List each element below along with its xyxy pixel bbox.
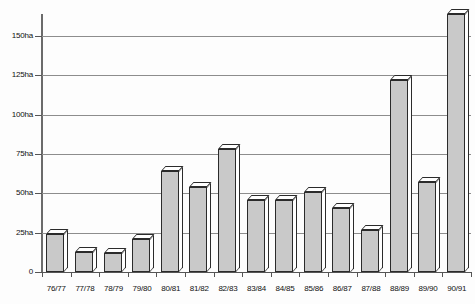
x-axis-tick-mark: [471, 272, 472, 277]
bar[interactable]: [361, 225, 379, 272]
bar[interactable]: [304, 187, 322, 272]
y-axis-tick-mark: [35, 154, 42, 155]
x-axis-tick-mark: [214, 272, 215, 277]
x-axis-tick-mark: [128, 272, 129, 277]
x-axis-tick-label: 81/82: [185, 284, 214, 293]
y-axis-tick-mark: [35, 233, 42, 234]
bar-front-face: [247, 200, 265, 272]
y-axis-tick-mark: [35, 115, 42, 116]
x-axis-tick-mark: [414, 272, 415, 277]
bar[interactable]: [189, 182, 207, 272]
bar-front-face: [104, 253, 122, 272]
bar-front-face: [332, 208, 350, 273]
bar[interactable]: [390, 75, 408, 272]
x-axis-tick-label: 85/86: [299, 284, 328, 293]
x-axis-tick-label: 80/81: [156, 284, 185, 293]
bar-front-face: [390, 80, 408, 272]
y-axis-tick-label: 75ha: [0, 149, 33, 158]
bar-front-face: [46, 234, 64, 272]
x-axis-tick-mark: [357, 272, 358, 277]
bar-side-face: [236, 145, 240, 272]
y-axis-tick-label: 125ha: [0, 70, 33, 79]
bar-front-face: [161, 171, 179, 272]
y-axis-tick-label: 50ha: [0, 188, 33, 197]
bar-front-face: [132, 239, 150, 272]
bar-front-face: [361, 230, 379, 272]
x-axis-tick-mark: [156, 272, 157, 277]
x-axis-tick-mark: [185, 272, 186, 277]
bar[interactable]: [275, 195, 293, 272]
y-axis-tick-label: 25ha: [0, 228, 33, 237]
x-axis-tick-mark: [42, 272, 43, 277]
bar-chart: 025ha50ha75ha100ha125ha150ha 76/7777/787…: [0, 0, 475, 304]
bar-front-face: [218, 149, 236, 272]
bar[interactable]: [218, 144, 236, 272]
bar[interactable]: [447, 9, 465, 272]
x-axis-tick-mark: [299, 272, 300, 277]
x-axis-tick-label: 82/83: [214, 284, 243, 293]
y-axis-tick-label: 100ha: [0, 110, 33, 119]
bar-side-face: [465, 9, 469, 272]
bar-front-face: [75, 252, 93, 272]
x-axis-tick-label: 79/80: [128, 284, 157, 293]
bar[interactable]: [161, 166, 179, 272]
x-axis-tick-mark: [71, 272, 72, 277]
y-axis-tick-label: 0: [0, 267, 33, 276]
bar[interactable]: [75, 247, 93, 272]
x-axis-tick-label: 78/79: [99, 284, 128, 293]
bar-side-face: [379, 225, 383, 272]
bar[interactable]: [332, 203, 350, 273]
bar-front-face: [447, 14, 465, 272]
bar[interactable]: [46, 229, 64, 272]
bar-side-face: [265, 195, 269, 272]
x-axis-tick-mark: [99, 272, 100, 277]
bar-side-face: [436, 178, 440, 272]
bar-side-face: [207, 182, 211, 272]
x-axis-tick-label: 84/85: [271, 284, 300, 293]
y-axis-tick-mark: [35, 193, 42, 194]
bar-front-face: [304, 192, 322, 272]
bar-side-face: [322, 187, 326, 272]
x-axis-tick-label: 76/77: [42, 284, 71, 293]
bar[interactable]: [132, 234, 150, 272]
bar-side-face: [179, 167, 183, 272]
x-axis-tick-label: 88/89: [385, 284, 414, 293]
bar-side-face: [293, 195, 297, 272]
x-axis-tick-mark: [271, 272, 272, 277]
bars-group: [42, 0, 471, 304]
x-axis-tick-label: 77/78: [71, 284, 100, 293]
bar-front-face: [418, 182, 436, 272]
x-axis-tick-label: 87/88: [357, 284, 386, 293]
y-axis-tick-mark: [35, 75, 42, 76]
y-axis-tick-mark: [35, 36, 42, 37]
x-axis-tick-label: 86/87: [328, 284, 357, 293]
bar-side-face: [408, 75, 412, 272]
bar[interactable]: [418, 177, 436, 272]
x-axis-tick-mark: [442, 272, 443, 277]
bar-side-face: [350, 203, 354, 272]
bar-side-face: [64, 229, 68, 272]
bar[interactable]: [104, 248, 122, 272]
bar[interactable]: [247, 195, 265, 272]
x-axis-tick-mark: [328, 272, 329, 277]
bar-side-face: [150, 234, 154, 272]
y-axis-tick-label: 150ha: [0, 31, 33, 40]
y-axis-tick-mark: [35, 272, 42, 273]
x-axis-tick-label: 89/90: [414, 284, 443, 293]
x-axis-tick-label: 83/84: [242, 284, 271, 293]
x-axis-tick-mark: [385, 272, 386, 277]
x-axis-tick-mark: [242, 272, 243, 277]
bar-front-face: [189, 187, 207, 272]
bar-front-face: [275, 200, 293, 272]
x-axis-tick-label: 90/91: [442, 284, 471, 293]
